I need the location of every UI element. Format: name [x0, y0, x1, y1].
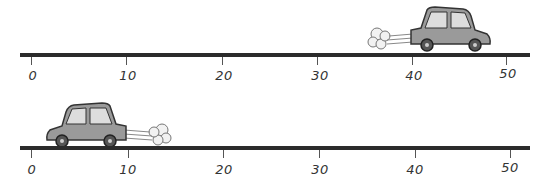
tick-40	[415, 150, 416, 158]
tick-20	[222, 57, 223, 65]
tick-label: 40	[405, 68, 423, 83]
top-track: 0 10 20 30 40 50	[0, 0, 542, 94]
car-left-icon	[44, 100, 174, 150]
tick-50	[506, 57, 507, 65]
tick-label: 10	[119, 162, 137, 177]
tick-40	[412, 57, 413, 65]
tick-label: 30	[311, 68, 329, 83]
tick-label: 20	[215, 68, 233, 83]
tick-10	[128, 150, 129, 158]
number-line	[20, 53, 530, 57]
number-line	[20, 146, 530, 150]
tick-30	[319, 150, 320, 158]
tick-30	[317, 57, 318, 65]
tick-20	[223, 150, 224, 158]
tick-label: 10	[119, 68, 137, 83]
tick-label: 20	[215, 162, 233, 177]
tick-label: 50	[501, 160, 519, 175]
tick-10	[126, 57, 127, 65]
tick-label: 40	[406, 162, 424, 177]
bottom-track: 0 10 20 30 40 50	[0, 94, 542, 188]
tick-0	[31, 150, 32, 158]
tick-50	[510, 150, 511, 158]
tick-label: 50	[499, 66, 517, 81]
tick-label: 0	[29, 68, 38, 83]
tick-label: 0	[28, 162, 37, 177]
car-right-icon	[365, 4, 495, 54]
tick-label: 30	[311, 162, 329, 177]
tick-0	[31, 57, 32, 65]
